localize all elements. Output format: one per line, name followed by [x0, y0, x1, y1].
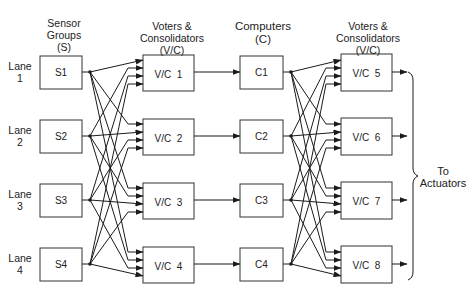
output-line: To [414, 165, 472, 177]
connector-arrow [90, 84, 128, 264]
vc-8: V/C 8 [341, 260, 392, 272]
lane-text: Lane [6, 124, 34, 136]
connector-arrow [90, 200, 143, 204]
connector-arrow [291, 264, 341, 276]
lane-number: 2 [6, 136, 34, 148]
vc-5: V/C 5 [341, 68, 392, 80]
connector-arrow [90, 68, 128, 136]
junction-dot [289, 198, 293, 202]
header-computers: Computers (C) [228, 20, 298, 46]
connector-arrow [291, 136, 326, 260]
junction-dot [88, 262, 92, 266]
lane-text: Lane [6, 60, 34, 72]
sensor-s4: S4 [40, 259, 82, 271]
vc-4: V/C 4 [143, 261, 194, 273]
vc-7: V/C 7 [341, 196, 392, 208]
connector-arrow [90, 200, 128, 268]
junction-dot [289, 134, 293, 138]
lane-label-3: Lane3 [6, 188, 34, 212]
junction-dot [289, 70, 293, 74]
lane-number: 3 [6, 200, 34, 212]
header-line: Voters & [326, 20, 410, 32]
header-line: Computers [228, 20, 298, 33]
lane-label-4: Lane4 [6, 252, 34, 276]
junction-dot [88, 134, 92, 138]
lane-number: 4 [6, 264, 34, 276]
header-line: (C) [228, 33, 298, 46]
connector-arrow [90, 60, 143, 72]
lane-label-2: Lane2 [6, 124, 34, 148]
lane-number: 1 [6, 72, 34, 84]
lane-text: Lane [6, 252, 34, 264]
header-line: Consolidators [326, 32, 410, 44]
junction-dot [289, 262, 293, 266]
connector-arrow [291, 72, 326, 252]
sensor-s3: S3 [40, 195, 82, 207]
vc-6: V/C 6 [341, 132, 392, 144]
connector-arrow [291, 84, 326, 264]
output-line: Actuators [414, 177, 472, 189]
header-voters-left: Voters & Consolidators (V/C) [130, 20, 214, 56]
junction-dot [88, 198, 92, 202]
connector-arrow [291, 60, 341, 72]
vc-2: V/C 2 [143, 133, 194, 145]
connector-arrow [90, 132, 143, 136]
computer-c2: C2 [240, 131, 283, 143]
header-sensor-groups: Sensor Groups (S) [36, 17, 92, 53]
header-line: Groups [36, 29, 92, 41]
vc-1: V/C 1 [143, 69, 194, 81]
computer-c3: C3 [240, 195, 283, 207]
header-line: (S) [36, 41, 92, 53]
connector-arrow [291, 76, 326, 200]
connector-arrow [90, 76, 128, 200]
header-line: (V/C) [130, 44, 214, 56]
connector-arrow [291, 68, 326, 136]
header-line: (V/C) [326, 44, 410, 56]
connector-arrow [90, 264, 143, 276]
header-line: Consolidators [130, 32, 214, 44]
computer-c1: C1 [240, 67, 283, 79]
to-actuators-label: To Actuators [414, 165, 472, 189]
header-line: Voters & [130, 20, 214, 32]
lane-text: Lane [6, 188, 34, 200]
connector-arrow [291, 200, 326, 268]
lane-label-1: Lane1 [6, 60, 34, 84]
vc-3: V/C 3 [143, 197, 194, 209]
header-voters-right: Voters & Consolidators (V/C) [326, 20, 410, 56]
header-line: Sensor [36, 17, 92, 29]
junction-dot [88, 70, 92, 74]
sensor-s2: S2 [40, 131, 82, 143]
computer-c4: C4 [240, 259, 283, 271]
connector-arrow [90, 136, 128, 260]
connector-arrow [90, 72, 128, 252]
sensor-s1: S1 [40, 67, 82, 79]
